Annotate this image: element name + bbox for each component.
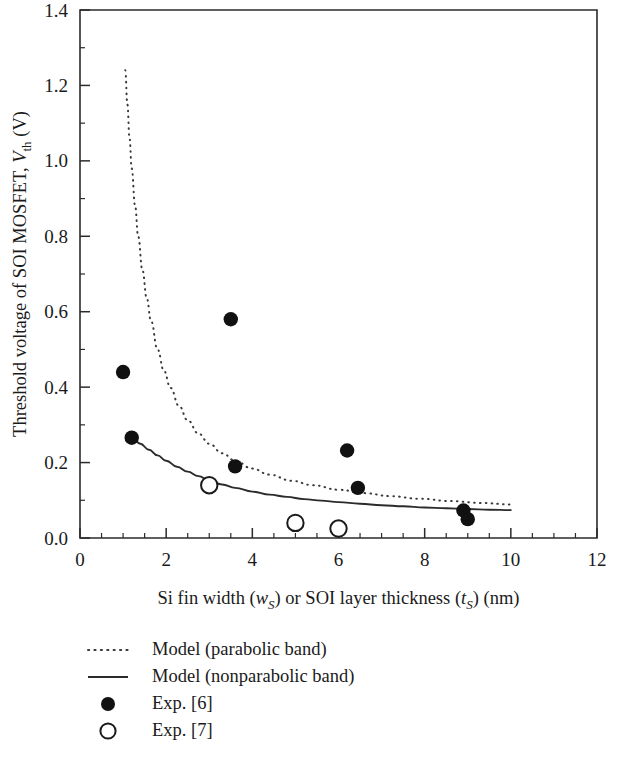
data-point-exp6 <box>224 312 238 326</box>
x-tick-label: 2 <box>161 549 171 570</box>
model-curves <box>125 70 511 510</box>
y-tick-label: 0.2 <box>44 452 68 473</box>
data-point-exp7 <box>330 520 346 536</box>
x-tick-label: 6 <box>334 549 344 570</box>
figure-container: 024681012 0.00.20.40.60.81.01.21.4 Si fi… <box>0 0 630 758</box>
data-point-exp6 <box>116 365 130 379</box>
data-point-exp6 <box>340 443 354 457</box>
data-point-exp6 <box>228 459 242 473</box>
x-tick-label: 4 <box>248 549 258 570</box>
legend-swatch-open-circle <box>100 723 115 738</box>
data-point-exp7 <box>287 515 303 531</box>
legend-label: Model (parabolic band) <box>152 639 327 660</box>
legend-label: Exp. [6] <box>152 693 213 713</box>
threshold-voltage-chart: 024681012 0.00.20.40.60.81.01.21.4 Si fi… <box>0 0 630 758</box>
x-tick-label: 8 <box>420 549 430 570</box>
x-tick-label: 0 <box>75 549 85 570</box>
y-axis-title-text: Threshold voltage of SOI MOSFET, Vth (V) <box>10 111 34 437</box>
data-point-exp6 <box>125 430 139 444</box>
nonparabolic-model-curve <box>132 438 511 510</box>
plot-box <box>80 10 597 538</box>
legend-label: Model (nonparabolic band) <box>152 666 354 687</box>
data-point-exp6 <box>351 481 365 495</box>
plot-frame <box>80 10 597 538</box>
x-axis-title: Si fin width (wS) or SOI layer thickness… <box>158 588 520 612</box>
x-axis-tick-labels: 024681012 <box>75 549 606 570</box>
y-tick-label: 1.4 <box>44 0 68 21</box>
y-tick-label: 0.6 <box>44 301 68 322</box>
y-tick-label: 1.2 <box>44 75 68 96</box>
data-point-markers <box>116 312 475 537</box>
y-tick-label: 0.0 <box>44 528 68 549</box>
legend-label: Exp. [7] <box>152 720 213 740</box>
y-tick-label: 0.4 <box>44 377 68 398</box>
x-tick-label: 12 <box>588 549 607 570</box>
chart-legend: Model (parabolic band)Model (nonparaboli… <box>88 639 354 740</box>
data-point-exp7 <box>201 477 217 493</box>
data-point-exp6 <box>461 512 475 526</box>
x-tick-label: 10 <box>501 549 520 570</box>
legend-swatch-filled-circle <box>101 697 115 711</box>
y-axis-title: Threshold voltage of SOI MOSFET, Vth (V) <box>10 111 34 437</box>
parabolic-model-curve <box>125 70 511 504</box>
y-axis-ticks <box>80 10 90 538</box>
y-tick-label: 0.8 <box>44 226 68 247</box>
y-tick-label: 1.0 <box>44 150 68 171</box>
x-axis-title-text: Si fin width (wS) or SOI layer thickness… <box>158 588 520 612</box>
y-axis-tick-labels: 0.00.20.40.60.81.01.21.4 <box>44 0 68 549</box>
